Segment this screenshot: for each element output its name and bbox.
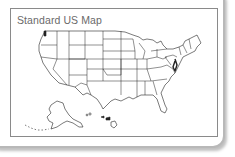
map-frame: Standard US Map bbox=[10, 8, 218, 137]
aleutian-islands bbox=[25, 125, 49, 130]
us-map-icon bbox=[11, 9, 219, 138]
us-map bbox=[11, 9, 219, 138]
contiguous-us-outline bbox=[39, 31, 201, 113]
alaska-outline bbox=[47, 101, 83, 129]
hawaii-islands bbox=[86, 113, 117, 128]
